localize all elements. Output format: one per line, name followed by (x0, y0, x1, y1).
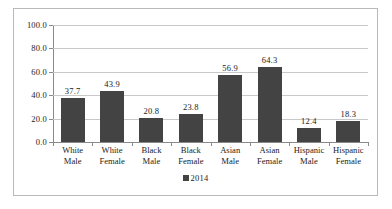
x-axis-label-line: Male (289, 156, 328, 167)
x-axis-labels-group: WhiteMaleWhiteFemaleBlackMaleBlackFemale… (53, 145, 368, 175)
y-axis-label-60.0: 60.0 (31, 67, 47, 77)
bar-white-male[interactable] (61, 98, 85, 142)
bar-slot-black-male: 20.8 (132, 25, 171, 142)
x-axis-label-line: Hispanic (289, 145, 328, 156)
bar-slot-white-female: 43.9 (92, 25, 131, 142)
x-axis-label-asian-female: AsianFemale (250, 145, 289, 167)
legend-swatch-2014 (183, 175, 189, 181)
x-axis-label-line: White (53, 145, 92, 156)
x-axis-label-white-male: WhiteMale (53, 145, 92, 167)
y-axis-label-40.0: 40.0 (31, 90, 47, 100)
bar-slot-white-male: 37.7 (53, 25, 92, 142)
bar-slot-black-female: 23.8 (171, 25, 210, 142)
bar-asian-male[interactable] (218, 75, 242, 142)
bar-value-black-female: 23.8 (183, 102, 199, 112)
bar-black-male[interactable] (139, 118, 163, 142)
bar-slot-asian-male: 56.9 (211, 25, 250, 142)
bar-value-hispanic-female: 18.3 (340, 109, 356, 119)
bar-white-female[interactable] (100, 91, 124, 142)
chart-legend: 2014 (14, 173, 377, 183)
bar-value-white-female: 43.9 (104, 79, 120, 89)
y-axis-label-20.0: 20.0 (31, 114, 47, 124)
y-axis-label-100.0: 100.0 (27, 20, 47, 30)
plot-area: 100.080.060.040.020.00.0 37.743.920.823.… (53, 25, 368, 142)
bar-slot-hispanic-male: 12.4 (289, 25, 328, 142)
bar-black-female[interactable] (179, 114, 203, 142)
x-axis-label-line: Male (132, 156, 171, 167)
bar-value-hispanic-male: 12.4 (301, 116, 317, 126)
x-axis-label-line: White (92, 145, 131, 156)
bar-hispanic-female[interactable] (336, 121, 360, 142)
bar-value-black-male: 20.8 (144, 106, 160, 116)
bar-value-asian-male: 56.9 (222, 63, 238, 73)
legend-label-2014: 2014 (191, 173, 209, 183)
x-axis-label-line: Black (132, 145, 171, 156)
y-axis-label-0.0: 0.0 (36, 137, 47, 147)
x-axis-label-line: Asian (250, 145, 289, 156)
x-axis-label-line: Female (171, 156, 210, 167)
x-axis-label-white-female: WhiteFemale (92, 145, 131, 167)
x-axis-label-line: Female (92, 156, 131, 167)
x-axis-label-line: Female (329, 156, 368, 167)
x-axis-label-line: Black (171, 145, 210, 156)
x-axis-label-hispanic-female: HispanicFemale (329, 145, 368, 167)
bar-value-asian-female: 64.3 (262, 55, 278, 65)
bar-slot-hispanic-female: 18.3 (329, 25, 368, 142)
x-axis-label-line: Hispanic (329, 145, 368, 156)
bar-asian-female[interactable] (258, 67, 282, 142)
x-axis-label-line: Male (211, 156, 250, 167)
x-axis-label-line: Male (53, 156, 92, 167)
x-axis-label-line: Female (250, 156, 289, 167)
x-axis-label-hispanic-male: HispanicMale (289, 145, 328, 167)
x-axis-label-black-female: BlackFemale (171, 145, 210, 167)
bar-value-white-male: 37.7 (65, 86, 81, 96)
x-axis-label-line: Asian (211, 145, 250, 156)
y-axis-label-80.0: 80.0 (31, 43, 47, 53)
x-axis-tick-8 (368, 142, 369, 146)
bar-slot-asian-female: 64.3 (250, 25, 289, 142)
x-axis-label-black-male: BlackMale (132, 145, 171, 167)
bar-hispanic-male[interactable] (297, 128, 321, 143)
chart-frame: 100.080.060.040.020.00.0 37.743.920.823.… (13, 8, 378, 196)
x-axis-label-asian-male: AsianMale (211, 145, 250, 167)
